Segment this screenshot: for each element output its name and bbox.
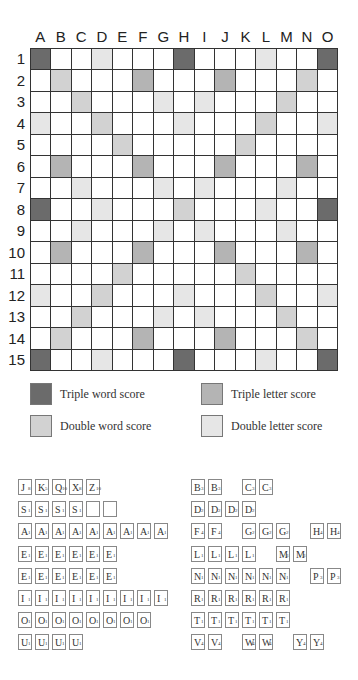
double-letter-square [154, 178, 173, 198]
tile-value: 1 [113, 553, 116, 559]
board-square [256, 307, 275, 327]
triple-letter-square [133, 156, 152, 176]
board-square [113, 199, 132, 219]
board-square [113, 156, 132, 176]
tile-letter: P [313, 570, 319, 584]
board-square [154, 70, 173, 90]
board-square [154, 156, 173, 176]
triple-letter-square [133, 242, 152, 262]
tile-value: 4 [201, 530, 204, 536]
double-word-square [174, 199, 193, 219]
tile-value: 1 [130, 530, 133, 536]
board-square [174, 242, 193, 262]
board-square [51, 135, 70, 155]
tile-letter: F [211, 525, 217, 539]
tile-value: 1 [28, 508, 31, 514]
double-letter-square [195, 307, 214, 327]
board-square [174, 307, 193, 327]
board-square [51, 350, 70, 370]
double-word-square [72, 307, 91, 327]
triple-letter-square [51, 242, 70, 262]
letter-tile: X8 [69, 479, 83, 495]
board-square [215, 92, 234, 112]
tile-letter: Z [89, 481, 95, 495]
tile-letter: I [38, 592, 41, 606]
letter-tile: N1 [208, 568, 222, 584]
row-label: 4 [0, 113, 28, 135]
letter-tile: U1 [18, 634, 32, 650]
board-square [154, 242, 173, 262]
tile-letter: E [89, 570, 95, 584]
row-label: 15 [0, 349, 28, 371]
triple-word-square [31, 350, 50, 370]
tile-letter: E [21, 548, 27, 562]
column-label: E [112, 28, 133, 46]
tile-value: 5 [45, 486, 48, 492]
board-square [51, 264, 70, 284]
triple-letter-square [133, 328, 152, 348]
tile-letter: I [140, 592, 143, 606]
tile-letter: C [245, 481, 252, 495]
board-square [318, 135, 337, 155]
letter-tile: E1 [69, 546, 83, 562]
tile-letter: E [55, 548, 61, 562]
tile-letter: T [211, 614, 217, 628]
letter-tile: A1 [86, 523, 100, 539]
double-word-square [51, 328, 70, 348]
letter-tile: D2 [208, 501, 222, 517]
board-square [92, 307, 111, 327]
double-letter-square [31, 285, 50, 305]
blank-tile [86, 501, 100, 517]
board-square [215, 350, 234, 370]
double-word-square [277, 307, 296, 327]
tile-value: 1 [252, 619, 255, 625]
tile-value: 1 [269, 575, 272, 581]
tile-letter: S [55, 503, 61, 517]
tile-value: 3 [269, 486, 272, 492]
tile-letter: R [211, 592, 218, 606]
letter-tile: A1 [18, 523, 32, 539]
tile-value: 1 [79, 530, 82, 536]
letter-tile: N1 [191, 568, 205, 584]
tile-value: 1 [28, 641, 31, 647]
double-word-square [51, 70, 70, 90]
tile-value: 10 [96, 486, 101, 492]
tile-letter: E [106, 570, 112, 584]
letter-tile: G2 [242, 523, 256, 539]
letter-tile: E1 [35, 568, 49, 584]
tile-letter: I [89, 592, 92, 606]
letter-tile: O1 [86, 612, 100, 628]
board-square [318, 178, 337, 198]
tile-value: 1 [45, 619, 48, 625]
board-square [277, 49, 296, 69]
tile-value: 1 [79, 553, 82, 559]
board-square [174, 156, 193, 176]
letter-tile: E1 [35, 546, 49, 562]
tile-value: 4 [252, 641, 255, 647]
tile-value: 1 [235, 575, 238, 581]
double-letter-square [256, 49, 275, 69]
double-word-square [72, 92, 91, 112]
board-square [31, 135, 50, 155]
letter-tile: Y4 [293, 634, 307, 650]
board-square [215, 285, 234, 305]
letter-tile: C3 [242, 479, 256, 495]
board-square [51, 92, 70, 112]
legend-double-word: Double word score [30, 415, 151, 437]
column-label: D [92, 28, 113, 46]
board-square [92, 221, 111, 241]
board-square [297, 199, 316, 219]
double-letter-square [154, 92, 173, 112]
board-square [113, 307, 132, 327]
tile-value: 4 [201, 641, 204, 647]
letter-tile: E1 [52, 568, 66, 584]
tile-letter: E [72, 570, 78, 584]
board-square [297, 113, 316, 133]
board-square [256, 264, 275, 284]
board-square [113, 178, 132, 198]
tile-letter: E [38, 548, 44, 562]
double-letter-square [195, 221, 214, 241]
board-square [154, 113, 173, 133]
letter-tile: N1 [242, 568, 256, 584]
board-square [195, 49, 214, 69]
